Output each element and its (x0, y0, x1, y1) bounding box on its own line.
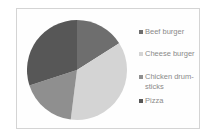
legend-label: Chicken drum- sticks (145, 72, 200, 92)
legend-swatch-icon (139, 52, 143, 56)
legend-item-cheese-burger: Cheese burger (139, 49, 200, 59)
legend-item-pizza: Pizza (139, 96, 200, 106)
legend-swatch-icon (139, 30, 143, 34)
legend-label: Cheese burger (145, 49, 200, 59)
legend-item-beef-burger: Beef burger (139, 27, 200, 37)
legend-swatch-icon (139, 75, 143, 79)
legend-item-chicken-drumsticks: Chicken drum- sticks (139, 72, 200, 92)
legend-label: Pizza (145, 96, 200, 106)
legend-swatch-icon (139, 99, 143, 103)
legend-label: Beef burger (145, 27, 200, 37)
pie-chart (26, 19, 128, 121)
